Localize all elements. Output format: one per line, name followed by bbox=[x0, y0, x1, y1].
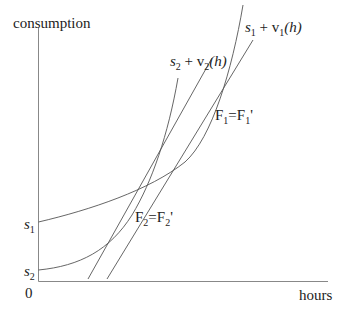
y-tick-s2: s2 bbox=[24, 263, 35, 282]
y-axis-label: consumption bbox=[13, 15, 91, 31]
curve-s1-v1 bbox=[39, 5, 244, 222]
x-axis-label: hours bbox=[299, 287, 332, 303]
curve-label-s1-v1: s1 + v1(h) bbox=[245, 19, 302, 38]
line-label-f1: F1=F1' bbox=[215, 107, 253, 126]
diagram-figure: consumption hours 0 s1 s2 s1 + v1(h) s2 … bbox=[0, 0, 349, 316]
y-tick-s1: s1 bbox=[24, 216, 35, 235]
line-label-f2: F2=F2' bbox=[135, 209, 173, 228]
origin-label: 0 bbox=[25, 285, 33, 301]
line-f1 bbox=[107, 40, 253, 279]
curve-s2-v2 bbox=[39, 78, 179, 270]
line-f2 bbox=[88, 58, 212, 279]
curve-label-s2-v2: s2 + v2(h) bbox=[170, 53, 227, 72]
